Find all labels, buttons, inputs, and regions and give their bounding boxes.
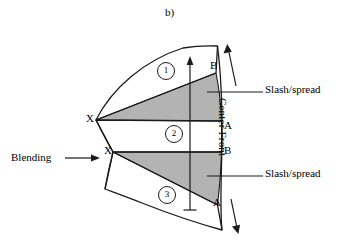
vertex-label-b-top: B	[210, 60, 217, 71]
upper-slash-wedge	[96, 73, 222, 121]
slash-spread-top-label: Slash/spread	[265, 84, 321, 95]
spread-arrow-top	[224, 44, 237, 86]
vertex-label-a-bottom: A	[213, 197, 221, 208]
pattern-diagram	[0, 0, 339, 246]
blending-label: Blending	[11, 152, 51, 163]
slash-spread-bottom-label: Slash/spread	[265, 168, 321, 179]
vertex-label-x-upper: X	[86, 113, 94, 124]
vertex-label-x-lower: X	[104, 145, 112, 156]
panel-label: b)	[0, 7, 339, 18]
spread-arrow-bottom	[231, 199, 240, 234]
vertex-label-b-middle: B	[224, 145, 231, 156]
region-2-number: 2	[167, 129, 181, 138]
region-2-outline	[96, 120, 222, 152]
figure-container: b) Blending Slash/spread Slash/spread Ce…	[0, 0, 339, 246]
lower-left-edge	[105, 152, 113, 189]
blending-pointer	[65, 154, 100, 161]
region-1-number: 1	[159, 66, 173, 75]
vertex-label-a-middle: A	[224, 120, 232, 131]
region-3-number: 3	[160, 190, 174, 199]
